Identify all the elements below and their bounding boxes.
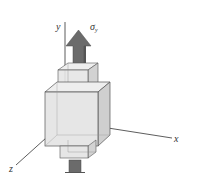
z-axis-label: z — [8, 163, 13, 173]
main-stress-cube — [45, 82, 110, 146]
x-axis — [108, 128, 172, 138]
stress-element-diagram: y x z σy — [0, 0, 199, 173]
y-axis-label: y — [55, 21, 61, 32]
x-axis-label: x — [173, 133, 179, 144]
z-axis — [16, 138, 46, 165]
stress-arrow-down — [65, 160, 85, 173]
stress-arrow-up — [66, 30, 91, 66]
stress-label: σy — [90, 21, 98, 33]
